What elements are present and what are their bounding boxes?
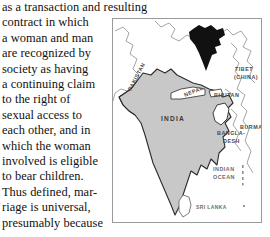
map-label-bangladesh-line2: DESH xyxy=(223,138,240,144)
text-line: as a transaction and resulting xyxy=(2,0,266,15)
text-line: are recognized by xyxy=(2,46,114,61)
figure-with-wrapped-text: as a transaction and resulting contract … xyxy=(0,0,270,237)
south-asia-map-graphic: PAKISTAN NEPAL TIBET (CHINA) BHUTAN BURM… xyxy=(113,19,261,222)
text-line: contract in which xyxy=(2,15,114,30)
map-label-bhutan: BHUTAN xyxy=(214,92,239,98)
text-line: a woman and man xyxy=(2,31,114,46)
text-line: to bear children. xyxy=(2,169,114,184)
map-label-bangladesh-line1: BANGLA- xyxy=(217,130,245,136)
text-line: riage is universal, xyxy=(2,200,114,215)
map-figure: PAKISTAN NEPAL TIBET (CHINA) BHUTAN BURM… xyxy=(112,18,262,223)
map-label-indian-ocean-line1: INDIAN xyxy=(213,166,235,172)
text-line: sexual access to xyxy=(2,108,114,123)
map-label-tibet-china: (CHINA) xyxy=(234,74,258,80)
map-label-tibet: TIBET xyxy=(235,66,253,72)
text-line: Thus defined, mar- xyxy=(2,185,114,200)
map-label-sri-lanka: SRI LANKA xyxy=(196,204,227,210)
map-label-indian-ocean-line2: OCEAN xyxy=(213,174,235,180)
text-line: a continuing claim xyxy=(2,77,114,92)
text-line: involved is eligible xyxy=(2,154,114,169)
india-inset-locator xyxy=(189,25,225,71)
sri-lanka-island xyxy=(179,195,191,217)
text-line: which the woman xyxy=(2,139,114,154)
text-line: to the right of xyxy=(2,92,114,107)
map-label-india: INDIA xyxy=(161,115,185,122)
text-line: each other, and in xyxy=(2,123,114,138)
text-line: society as having xyxy=(2,62,114,77)
island-dots xyxy=(242,165,245,207)
